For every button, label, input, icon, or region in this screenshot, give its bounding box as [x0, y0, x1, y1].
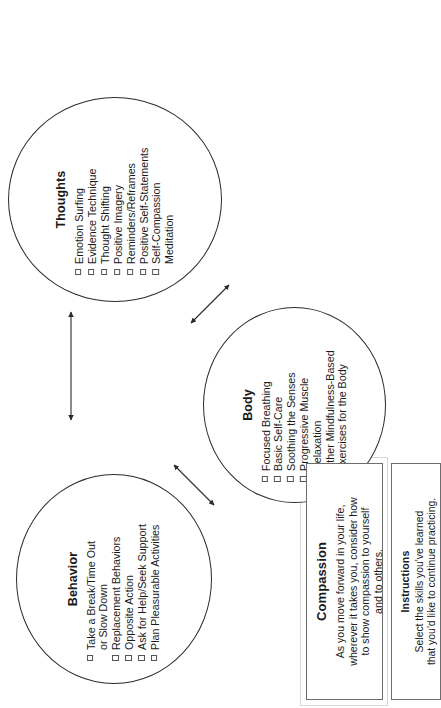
list-item[interactable]: Soothing the Senses	[285, 328, 297, 482]
list-item-label: Replacement Behaviors	[110, 537, 122, 650]
compassion-box: Compassion As you move forward in your l…	[306, 463, 383, 700]
node-behavior-content: Behavior Take a Break/Time Out or Slow D…	[66, 475, 162, 683]
node-thoughts[interactable]: Thoughts Emotion Surfing Evidence Techni…	[8, 97, 222, 302]
list-item[interactable]: Progressive Muscle Relaxation	[298, 328, 323, 482]
list-item-label: Self-Compassion Meditation	[151, 183, 175, 264]
list-item[interactable]: Take a Break/Time Out or Slow Down	[85, 497, 110, 661]
list-item[interactable]: Focused Breathing	[259, 328, 271, 482]
list-item-label: Take a Break/Time Out or Slow Down	[85, 541, 109, 650]
list-item[interactable]: Plan Pleasurable Activities	[149, 497, 161, 661]
node-behavior-checklist: Take a Break/Time Out or Slow Down Repla…	[85, 497, 161, 661]
checkbox-icon[interactable]	[125, 655, 131, 661]
connector-body-behavior-double-arrow-icon	[168, 459, 220, 511]
list-item[interactable]: Self-Compassion Meditation	[151, 124, 176, 275]
checkbox-icon[interactable]	[287, 476, 293, 482]
checkbox-icon[interactable]	[75, 269, 81, 275]
node-thoughts-content: Thoughts Emotion Surfing Evidence Techni…	[54, 98, 176, 301]
list-item[interactable]: Opposite Action	[123, 497, 135, 661]
list-item-label: Evidence Technique	[86, 169, 98, 264]
instructions-body-text: Select the skills you've learned that yo…	[414, 471, 439, 692]
node-thoughts-title: Thoughts	[54, 124, 68, 275]
list-item-label: Emotion Surfing	[73, 188, 85, 264]
checkbox-icon[interactable]	[112, 655, 118, 661]
connector-behavior-thoughts-double-arrow-icon	[64, 307, 78, 425]
list-item-label: Plan Pleasurable Activities	[149, 525, 161, 650]
checkbox-icon[interactable]	[88, 269, 94, 275]
list-item-label: Thought Shifting	[99, 186, 111, 264]
instructions-box: Instructions Select the skills you've le…	[391, 463, 441, 700]
checkbox-icon[interactable]	[101, 269, 107, 275]
instructions-title: Instructions	[399, 471, 411, 692]
checkbox-icon[interactable]	[151, 655, 157, 661]
checkbox-icon[interactable]	[140, 269, 146, 275]
list-item-label: Soothing the Senses	[285, 372, 297, 471]
checkbox-icon[interactable]	[261, 476, 267, 482]
node-behavior-title: Behavior	[66, 497, 80, 661]
checkbox-icon[interactable]	[153, 269, 159, 275]
list-item-label: Focused Breathing	[259, 381, 271, 471]
list-item[interactable]: Other Mindfulness-Based Exercises for th…	[323, 328, 348, 482]
list-item[interactable]: Positive Imagery	[112, 124, 124, 275]
list-item[interactable]: Replacement Behaviors	[110, 497, 122, 661]
checkbox-icon[interactable]	[274, 476, 280, 482]
checkbox-icon[interactable]	[127, 269, 133, 275]
list-item-label: Opposite Action	[123, 575, 135, 650]
connector-body-thoughts-double-arrow-icon	[186, 280, 234, 328]
list-item[interactable]: Basic Self-Care	[272, 328, 284, 482]
checkbox-icon[interactable]	[138, 655, 144, 661]
compassion-title: Compassion	[314, 471, 329, 692]
node-body-title: Body	[240, 328, 254, 482]
node-body-checklist: Focused Breathing Basic Self-Care Soothi…	[259, 328, 348, 482]
checkbox-icon[interactable]	[114, 269, 120, 275]
list-item-label: Other Mindfulness-Based Exercises for th…	[323, 350, 347, 471]
compassion-body-text: As you move forward in your life, wherev…	[334, 471, 384, 692]
list-item[interactable]: Thought Shifting	[99, 124, 111, 275]
list-item-label: Progressive Muscle Relaxation	[298, 378, 322, 471]
list-item[interactable]: Reminders/Reframes	[125, 124, 137, 275]
list-item[interactable]: Emotion Surfing	[73, 124, 85, 275]
list-item-label: Positive Imagery	[112, 185, 124, 264]
checkbox-icon[interactable]	[87, 655, 93, 661]
list-item[interactable]: Positive Self-Statements	[138, 124, 150, 275]
list-item[interactable]: Evidence Technique	[86, 124, 98, 275]
list-item[interactable]: Ask for Help/Seek Support	[136, 497, 148, 661]
node-thoughts-checklist: Emotion Surfing Evidence Technique Thoug…	[73, 124, 175, 275]
list-item-label: Reminders/Reframes	[125, 163, 137, 264]
list-item-label: Ask for Help/Seek Support	[136, 524, 148, 650]
list-item-label: Basic Self-Care	[272, 397, 284, 471]
list-item-label: Positive Self-Statements	[138, 148, 150, 264]
